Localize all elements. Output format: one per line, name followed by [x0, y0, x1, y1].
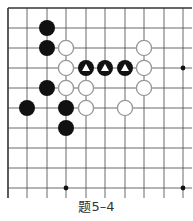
- white-stone: [58, 80, 73, 95]
- white-stone: [78, 100, 93, 115]
- black-stone-triangle-marked: [117, 60, 133, 76]
- white-stone: [117, 100, 132, 115]
- black-stone: [39, 80, 55, 96]
- star-point: [181, 66, 186, 71]
- black-stone-triangle-marked: [78, 60, 94, 76]
- board-grid: [8, 8, 192, 198]
- star-point: [64, 186, 69, 191]
- black-stone-triangle-marked: [97, 60, 113, 76]
- white-stone: [136, 80, 151, 95]
- white-stone: [58, 40, 73, 55]
- diagram-caption: 题5–4: [0, 199, 193, 215]
- black-stone: [19, 100, 35, 116]
- white-stone: [136, 60, 151, 75]
- black-stone: [39, 20, 55, 36]
- white-stone: [78, 80, 93, 95]
- black-stone: [58, 120, 74, 136]
- go-board: [0, 0, 193, 200]
- white-stone: [58, 60, 73, 75]
- black-stone: [58, 100, 74, 116]
- white-stone: [136, 40, 151, 55]
- black-stone: [39, 40, 55, 56]
- stones-layer: [19, 20, 152, 136]
- star-point: [181, 186, 186, 191]
